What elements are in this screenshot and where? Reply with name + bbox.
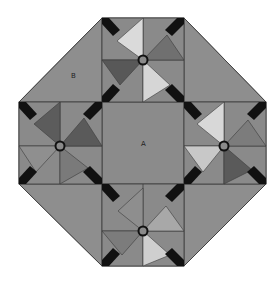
- pinwheel-center-icon: [56, 142, 65, 151]
- pinwheel-right: [184, 102, 266, 184]
- corner-triangle-top-left: [19, 18, 102, 102]
- corner-triangle-top-right: [184, 18, 266, 102]
- pinwheel-bottom: [102, 184, 184, 266]
- quilt-diagram: [0, 0, 280, 283]
- pinwheel-left: [19, 102, 102, 184]
- corner-label-b: B: [71, 72, 76, 80]
- corner-triangle-bottom-right: [184, 184, 266, 266]
- center-label-a: A: [141, 140, 146, 148]
- pinwheel-top: [102, 18, 184, 102]
- pinwheel-center-icon: [220, 142, 229, 151]
- pinwheel-center-icon: [139, 56, 148, 65]
- pinwheel-center-icon: [139, 227, 148, 236]
- corner-triangle-bottom-left: [19, 184, 102, 266]
